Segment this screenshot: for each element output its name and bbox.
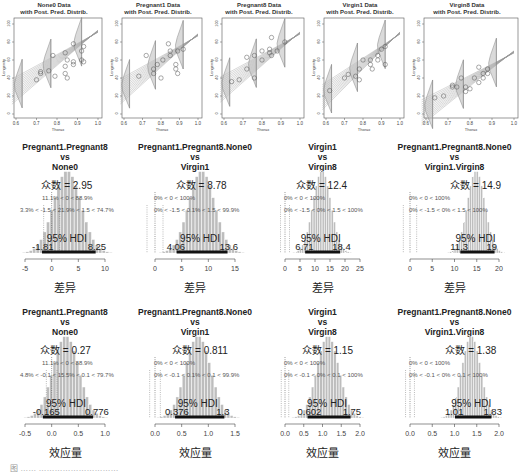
mode-label: 众数 = 1.38 bbox=[445, 342, 496, 357]
y-tick-label: 0 bbox=[214, 112, 219, 114]
x-tick-label: 0.9 bbox=[378, 121, 384, 126]
x-axis-label: 差异 bbox=[0, 279, 130, 295]
x-tick-label: 5 bbox=[298, 265, 302, 272]
data-point bbox=[370, 67, 374, 71]
y-tick-label: 80 bbox=[114, 39, 119, 43]
hdi-lower-value: 6.71 bbox=[295, 241, 314, 252]
x-axis-label: 效应量 bbox=[260, 444, 385, 460]
y-tick-label: 20 bbox=[214, 93, 219, 97]
x-tick-label: 0.0 bbox=[47, 430, 57, 437]
x-tick-label: 0.8 bbox=[360, 121, 366, 126]
y-tick-label: 0 bbox=[416, 112, 421, 114]
x-tick-label: 10 bbox=[451, 265, 459, 272]
data-point bbox=[63, 64, 67, 68]
x-axis-label: 差异 bbox=[385, 279, 524, 295]
posterior-histogram-7: Virgin1vsVirgin8众数 = 1.150% < 0 < 100%0%… bbox=[260, 305, 385, 470]
data-point bbox=[368, 62, 372, 66]
zero-comparison-stat: 0% < 0 < 100% bbox=[154, 195, 195, 201]
scatter-plot bbox=[310, 0, 410, 135]
y-tick-label: 40 bbox=[416, 75, 421, 79]
rope-comparison-stat: 0% < -1.5 < 0% < 1.5 < 100% bbox=[409, 207, 488, 213]
scatter-plot bbox=[108, 0, 208, 135]
x-tick-label: 0.9 bbox=[176, 121, 182, 126]
x-tick-label: 1.0 bbox=[100, 430, 110, 437]
x-tick-label: 0 bbox=[153, 265, 157, 272]
x-tick-label: 5 bbox=[430, 265, 434, 272]
x-tick-label: 0 bbox=[408, 265, 412, 272]
y-tick-label: 100 bbox=[6, 20, 11, 27]
y-tick-label: 100 bbox=[416, 20, 421, 27]
x-tick-label: 0.7 bbox=[341, 121, 347, 126]
x-tick-label: 25 bbox=[356, 265, 364, 272]
rope-comparison-stat: 0% < -0.1 < 0% < 0.1 < 100% bbox=[284, 372, 363, 378]
x-tick-label: 2.0 bbox=[355, 430, 365, 437]
x-tick-label: 0.6 bbox=[323, 121, 329, 126]
x-tick-label: 15 bbox=[473, 265, 481, 272]
x-tick-label: 0.6 bbox=[221, 121, 227, 126]
y-tick-label: 40 bbox=[316, 75, 321, 79]
hdi-lower-value: -1.81 bbox=[32, 241, 54, 252]
y-tick-label: 0 bbox=[316, 112, 321, 114]
data-point bbox=[65, 58, 69, 62]
y-tick-label: 0 bbox=[6, 112, 11, 114]
y-tick-label: 80 bbox=[316, 39, 321, 43]
data-point bbox=[175, 71, 179, 75]
hdi-upper-value: 1.83 bbox=[483, 406, 502, 417]
data-point bbox=[144, 53, 148, 57]
x-tick-label: 15 bbox=[231, 265, 239, 272]
x-tick-label: 0.6 bbox=[13, 121, 19, 126]
y-tick-label: 20 bbox=[6, 93, 11, 97]
data-point bbox=[65, 76, 69, 80]
posterior-histogram-1: Pregnant1.Pregnant8vsNone0众数 = 2.9511.1%… bbox=[0, 140, 130, 305]
y-tick-label: 40 bbox=[114, 75, 119, 79]
hdi-upper-value: 18.4 bbox=[332, 241, 351, 252]
x-tick-label: 0.5 bbox=[299, 430, 309, 437]
hdi-label: 95% HDI bbox=[180, 233, 220, 244]
x-tick-label: 0.5 bbox=[427, 430, 437, 437]
hdi-upper-value: 1.75 bbox=[343, 406, 362, 417]
scatter-plot bbox=[0, 0, 108, 135]
hdi-upper-value: 19 bbox=[487, 241, 498, 252]
x-axis-label: 效应量 bbox=[385, 444, 524, 460]
x-tick-label: 0.8 bbox=[467, 121, 473, 126]
posterior-histogram-3: Virgin1vsVirgin8众数 = 12.40% < 0 < 100%0%… bbox=[260, 140, 385, 305]
zero-comparison-stat: 11.1% < 0 < 88.9% bbox=[42, 360, 93, 366]
y-tick-label: 60 bbox=[316, 57, 321, 61]
x-tick-label: 0.6 bbox=[423, 121, 429, 126]
x-tick-label: 1.0 bbox=[95, 121, 101, 126]
x-tick-label: 0.8 bbox=[54, 121, 60, 126]
x-tick-label: 15 bbox=[326, 265, 334, 272]
x-tick-label: 1.5 bbox=[472, 430, 482, 437]
x-axis-label: 差异 bbox=[260, 279, 385, 295]
x-axis-label: Thorax bbox=[465, 127, 477, 132]
x-axis-label: Thorax bbox=[358, 127, 370, 132]
x-tick-label: 5 bbox=[76, 265, 80, 272]
rope-comparison-stat: 0% < -0.1 < 0.1% < 0.1 < 99.9% bbox=[154, 372, 239, 378]
x-tick-label: 1.0 bbox=[397, 121, 403, 126]
rope-comparison-stat: 3.3% < -1.5 < 21.9% < 1.5 < 74.7% bbox=[20, 207, 114, 213]
y-tick-label: 20 bbox=[416, 93, 421, 97]
data-point bbox=[468, 87, 472, 91]
hdi-lower-value: 1.01 bbox=[445, 406, 464, 417]
data-point bbox=[174, 67, 178, 71]
scatter-plot bbox=[410, 0, 524, 135]
x-tick-label: 1.0 bbox=[318, 430, 328, 437]
rope-comparison-stat: 4.8% < -0.1 < 15.5% < 0.1 < 79.7% bbox=[20, 372, 114, 378]
mode-label: 众数 = 0.811 bbox=[172, 342, 228, 357]
x-tick-label: 1.0 bbox=[195, 121, 201, 126]
posterior-histogram-5: Pregnant1.Pregnant8vsNone0众数 = 0.2711.1%… bbox=[0, 305, 130, 470]
y-tick-label: 20 bbox=[316, 93, 321, 97]
rope-comparison-stat: 0% < -1.5 < 0% < 1.5 < 100% bbox=[284, 207, 363, 213]
y-tick-label: 40 bbox=[6, 75, 11, 79]
y-tick-label: 80 bbox=[214, 39, 219, 43]
mode-label: 众数 = 2.95 bbox=[41, 177, 92, 192]
rope-comparison-stat: 0% < -0.1 < 0% < 0.1 < 100% bbox=[409, 372, 488, 378]
scatter-panel-3: Pregnant8 Datawith Post. Pred. Distrib.0… bbox=[208, 0, 310, 135]
x-tick-label: 0.9 bbox=[74, 121, 80, 126]
x-tick-label: 0.7 bbox=[445, 121, 451, 126]
x-tick-label: 20 bbox=[495, 265, 503, 272]
hdi-lower-value: 11.3 bbox=[450, 241, 468, 252]
x-axis-label: 效应量 bbox=[130, 444, 260, 460]
zero-comparison-stat: 0% < 0 < 100% bbox=[409, 195, 450, 201]
x-tick-label: 20 bbox=[341, 265, 349, 272]
